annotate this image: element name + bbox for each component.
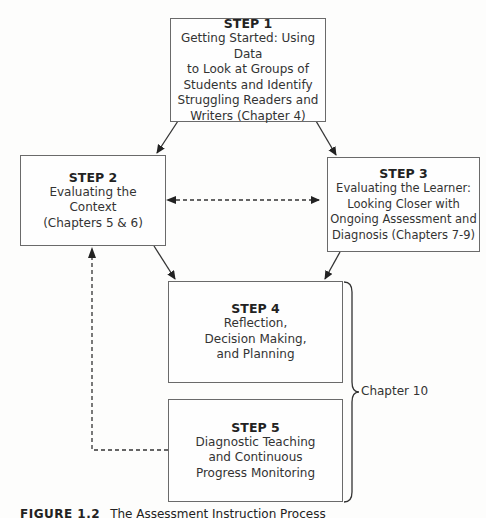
step-2-text: Evaluating the Context (Chapters 5 & 6) [43, 185, 143, 232]
step-4-text: Reflection, Decision Making, and Plannin… [205, 316, 307, 363]
step-1-title: STEP 1 [224, 16, 272, 31]
arrow-step5-to-step2 [92, 257, 168, 450]
figure-title: The Assessment Instruction Process [110, 507, 326, 518]
step-3-text: Evaluating the Learner: Looking Closer w… [330, 181, 476, 243]
arrow-step2-to-step4 [154, 246, 175, 279]
step-3-box: STEP 3 Evaluating the Learner: Looking C… [327, 157, 480, 252]
step-5-title: STEP 5 [231, 420, 279, 435]
step-2-box: STEP 2 Evaluating the Context (Chapters … [20, 155, 166, 246]
step-4-box: STEP 4 Reflection, Decision Making, and … [168, 281, 343, 383]
step-5-text: Diagnostic Teaching and Continuous Progr… [196, 435, 316, 482]
step-2-title: STEP 2 [69, 170, 117, 185]
figure-caption: FIGURE 1.2The Assessment Instruction Pro… [20, 507, 326, 518]
arrow-step1-to-step2 [157, 121, 178, 153]
chapter-10-label: Chapter 10 [361, 384, 428, 398]
step-5-box: STEP 5 Diagnostic Teaching and Continuou… [168, 399, 343, 502]
arrow-step1-to-step3 [316, 121, 336, 155]
step-1-box: STEP 1 Getting Started: Using Data to Lo… [170, 18, 326, 122]
step-1-text: Getting Started: Using Data to Look at G… [171, 31, 325, 124]
chapter-brace [344, 282, 359, 502]
step-4-title: STEP 4 [231, 301, 279, 316]
step-3-title: STEP 3 [379, 166, 427, 181]
figure-number: FIGURE 1.2 [20, 507, 100, 518]
arrow-step3-to-step4 [325, 252, 340, 279]
